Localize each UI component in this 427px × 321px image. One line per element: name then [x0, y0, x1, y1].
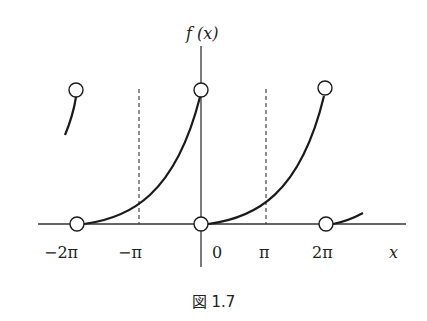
tick-label-minus-2pi: −2π — [44, 243, 78, 262]
tick-label-pi: π — [259, 243, 270, 262]
curve-segment-left — [65, 97, 76, 135]
graph — [0, 0, 427, 321]
tick-label-2pi: 2π — [312, 243, 333, 262]
tick-label-zero: 0 — [212, 243, 222, 262]
open-circle-marker — [70, 217, 84, 231]
x-axis-label: x — [389, 243, 398, 262]
curve-segment-right — [333, 213, 363, 224]
open-circle-marker — [318, 81, 332, 95]
open-circle-marker — [194, 217, 208, 231]
figure-caption: 図 1.7 — [0, 290, 427, 311]
open-circle-marker — [194, 83, 208, 97]
open-circle-marker — [69, 83, 83, 97]
open-circle-marker — [319, 217, 333, 231]
curve-segment-1 — [84, 97, 200, 224]
tick-label-minus-pi: −π — [118, 243, 142, 262]
y-axis-label: f (x) — [186, 24, 219, 43]
